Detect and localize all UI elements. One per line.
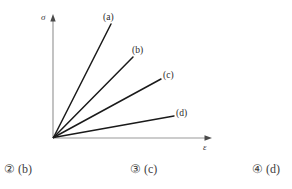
answer-option-4-label: (d) (266, 162, 280, 176)
answer-option-4[interactable]: ④(d) (252, 163, 280, 175)
answer-options: ②(b) ③(c) ④(d) (0, 158, 292, 189)
answer-option-3[interactable]: ③(c) (130, 163, 157, 175)
stress-strain-figure: σ ε (a) (b) (c) (d) (0, 0, 292, 160)
answer-option-2-label: (b) (18, 162, 32, 176)
answer-option-2[interactable]: ②(b) (4, 163, 32, 175)
answer-option-2-number: ② (4, 162, 15, 176)
line-c (54, 79, 162, 138)
curve-label-a: (a) (103, 13, 114, 23)
x-axis-arrowhead (205, 135, 213, 140)
curve-label-c: (c) (163, 71, 174, 81)
answer-option-3-label: (c) (144, 162, 157, 176)
answer-option-3-number: ③ (130, 162, 141, 176)
y-axis-label: σ (41, 13, 45, 22)
answer-option-4-number: ④ (252, 162, 263, 176)
y-axis-arrowhead (50, 14, 55, 22)
x-axis (53, 135, 212, 140)
y-axis (50, 14, 55, 138)
x-axis-label: ε (203, 143, 207, 152)
line-a (54, 24, 112, 138)
stress-strain-plot (0, 0, 292, 160)
curve-label-d: (d) (176, 109, 187, 119)
curve-label-b: (b) (132, 46, 143, 56)
